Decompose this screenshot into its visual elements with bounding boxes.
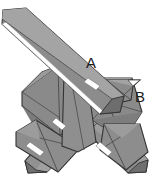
vertex-label-b: B (135, 89, 145, 104)
figure-canvas (0, 0, 154, 184)
geometric-figure: A B (0, 0, 154, 184)
vertex-label-a: A (86, 55, 96, 70)
